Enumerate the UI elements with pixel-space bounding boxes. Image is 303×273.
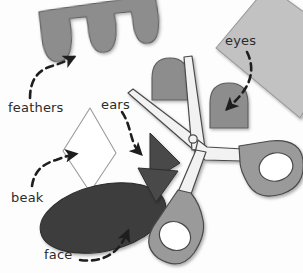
arrow-to-feathers — [30, 57, 74, 98]
label-face: face — [44, 247, 73, 262]
label-eyes: eyes — [225, 33, 256, 48]
arrows-layer — [0, 0, 303, 273]
label-ears: ears — [101, 97, 130, 112]
craft-pieces-photo: feathers ears eyes beak face — [0, 0, 303, 273]
arrow-to-beak — [32, 154, 76, 186]
arrow-to-ears — [122, 112, 141, 154]
label-feathers: feathers — [8, 100, 64, 115]
arrow-to-face — [80, 231, 128, 261]
label-beak: beak — [11, 190, 44, 205]
arrow-to-eyes — [227, 52, 251, 109]
